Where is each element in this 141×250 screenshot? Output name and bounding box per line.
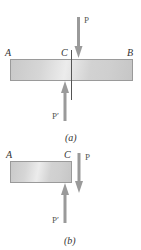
arrow-down-icon [75,153,83,193]
label-force-p-prime: P′ [52,216,59,225]
arrow-up-icon [61,183,69,223]
figure-b-graphics [0,0,141,250]
label-force-p: P [85,153,90,162]
caption-b: (b) [64,236,76,246]
